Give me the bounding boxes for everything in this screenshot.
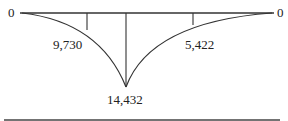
right-end-value: 0 (277, 6, 284, 19)
peak-moment-value: 14,432 (107, 93, 143, 106)
right-moment-value: 5,422 (185, 38, 214, 51)
left-moment-value: 9,730 (53, 38, 82, 51)
left-end-value: 0 (8, 6, 15, 19)
moment-diagram-svg (0, 0, 288, 121)
